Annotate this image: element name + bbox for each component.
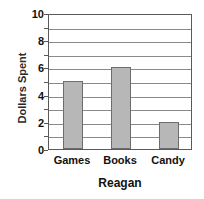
y-tick-label: 0 xyxy=(22,145,44,156)
x-tick-label: Candy xyxy=(138,154,198,166)
y-tick-mark xyxy=(44,150,48,151)
y-axis-tick-labels: 0246810 xyxy=(20,14,44,150)
bar-series xyxy=(49,15,191,149)
bar xyxy=(159,122,179,149)
y-tick-label: 2 xyxy=(22,118,44,129)
bar xyxy=(63,81,83,149)
bar xyxy=(111,67,131,149)
bar-chart: Dollars Spent 0246810 Reagan GamesBooksC… xyxy=(0,0,204,199)
y-tick-label: 10 xyxy=(22,9,44,20)
y-tick-label: 8 xyxy=(22,36,44,47)
y-tick-label: 4 xyxy=(22,91,44,102)
x-axis-title: Reagan xyxy=(48,176,192,190)
plot-area xyxy=(48,14,192,150)
y-tick-label: 6 xyxy=(22,63,44,74)
